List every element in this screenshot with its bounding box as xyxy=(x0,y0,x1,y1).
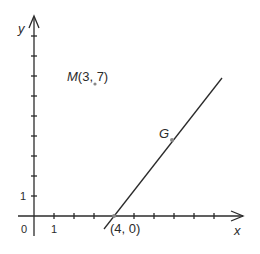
x-tick-label-1: 1 xyxy=(51,223,57,235)
point-m-label: M(3, 7) xyxy=(67,69,108,84)
coordinate-plane: y x 0 1 1 (4, 0) G M(3, 7) xyxy=(0,0,260,254)
point-intercept xyxy=(112,214,116,218)
x-axis xyxy=(18,211,243,221)
point-g-label: G xyxy=(159,126,169,141)
intercept-label: (4, 0) xyxy=(110,221,140,236)
point-g xyxy=(170,138,174,142)
line-through-intercept-and-g xyxy=(104,78,222,229)
y-axis-label: y xyxy=(17,21,26,36)
y-axis xyxy=(29,16,39,236)
x-axis-label: x xyxy=(233,223,241,238)
origin-label: 0 xyxy=(21,223,27,235)
y-tick-label-1: 1 xyxy=(20,190,26,202)
